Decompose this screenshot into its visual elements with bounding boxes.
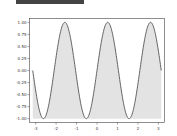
y-tick-label: 1.00 xyxy=(18,20,27,25)
y-tick-label: 0.75 xyxy=(18,32,27,37)
y-tick-label: -0.75 xyxy=(16,104,27,109)
y-tick-label: 0.25 xyxy=(18,56,27,61)
x-axis-ticks: -3-2-10123 xyxy=(34,123,160,131)
x-tick-label: 2 xyxy=(137,126,140,131)
x-tick-label: -2 xyxy=(54,126,58,131)
y-tick-label: 0.00 xyxy=(18,68,27,73)
sine-chart: -3-2-10123 1.000.750.500.250.00-0.25-0.5… xyxy=(0,0,177,136)
x-tick-label: 1 xyxy=(116,126,119,131)
y-tick-label: -0.25 xyxy=(16,80,27,85)
x-tick-label: -3 xyxy=(34,126,38,131)
x-tick-label: 3 xyxy=(157,126,160,131)
y-tick-label: -0.50 xyxy=(16,92,27,97)
y-tick-label: 0.50 xyxy=(18,44,27,49)
x-tick-label: -1 xyxy=(75,126,79,131)
y-tick-label: -1.00 xyxy=(16,116,27,121)
x-tick-label: 0 xyxy=(96,126,99,131)
y-axis-ticks: 1.000.750.500.250.00-0.25-0.50-0.75-1.00 xyxy=(16,20,29,121)
